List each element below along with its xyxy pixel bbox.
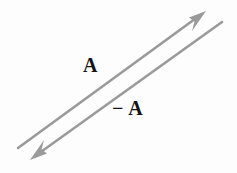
vector-a-label: A	[83, 55, 97, 75]
vector-a-arrow	[18, 11, 206, 148]
vector-neg-a-arrow	[30, 22, 222, 160]
vector-neg-a-shaft	[38, 22, 222, 154]
vector-a-shaft	[18, 16, 199, 148]
vector-neg-a-label: − A	[112, 98, 143, 118]
vector-canvas	[0, 0, 237, 173]
vector-diagram-figure: A − A	[0, 0, 237, 173]
